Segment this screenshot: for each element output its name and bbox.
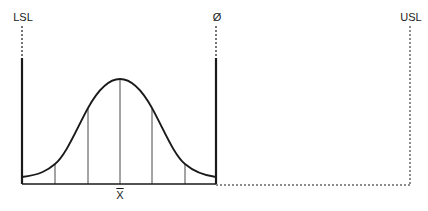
mean-label: X xyxy=(116,189,123,201)
lsl-label: LSL xyxy=(13,11,33,23)
diagram-canvas xyxy=(0,0,428,211)
diameter-label: Ø xyxy=(213,11,222,23)
usl-label: USL xyxy=(400,11,421,23)
bell-curve xyxy=(22,79,216,177)
